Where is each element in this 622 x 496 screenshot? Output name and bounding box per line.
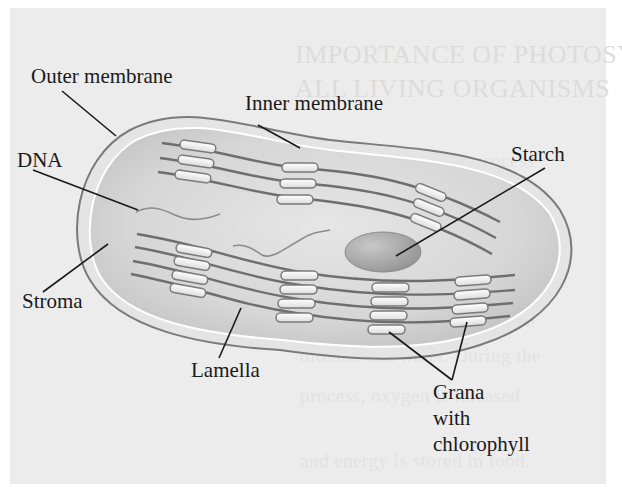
label-grana-line-2: with — [433, 408, 470, 429]
label-outer-membrane: Outer membrane — [31, 66, 173, 87]
leader-outer-membrane — [62, 91, 116, 136]
label-starch: Starch — [511, 144, 565, 165]
label-inner-membrane: Inner membrane — [245, 93, 383, 114]
label-grana-line-3: chlorophyll — [433, 434, 530, 455]
label-stroma: Stroma — [22, 291, 83, 312]
label-lamella: Lamella — [191, 360, 260, 381]
starch-granule — [345, 232, 421, 272]
label-grana-line-1: Grana — [433, 382, 484, 403]
label-dna: DNA — [17, 150, 63, 171]
